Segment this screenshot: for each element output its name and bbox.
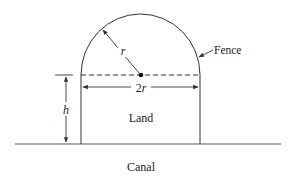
fence-label: Fence (214, 44, 241, 56)
center-dot (139, 73, 144, 78)
fence-land-canal-diagram: r 2r h Fence Land Canal (0, 0, 293, 188)
fence-leader-arrow (199, 50, 213, 57)
canal-label: Canal (127, 160, 156, 174)
height-label: h (63, 103, 69, 117)
radius-label: r (121, 44, 126, 58)
width-label: 2r (136, 81, 147, 95)
land-label: Land (129, 111, 154, 125)
